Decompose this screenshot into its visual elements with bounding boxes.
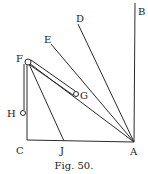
label-j: J — [59, 145, 64, 156]
label-e: E — [44, 34, 51, 45]
line-ad — [78, 24, 134, 142]
point-g — [74, 92, 79, 97]
line-ae — [51, 44, 134, 142]
label-f: F — [16, 53, 23, 64]
point-h — [21, 111, 26, 116]
point-f — [25, 59, 31, 65]
line-ab — [134, 3, 135, 142]
label-d: D — [76, 13, 84, 24]
label-h: H — [7, 108, 16, 119]
label-c: C — [16, 145, 24, 156]
figure-caption: Fig. 50. — [55, 160, 94, 171]
label-a: A — [129, 146, 138, 157]
label-g: G — [80, 90, 88, 101]
label-b: B — [138, 6, 145, 17]
line-ca — [27, 140, 134, 142]
geometry-figure: B D E F G H C J A Fig. 50. — [0, 0, 148, 174]
